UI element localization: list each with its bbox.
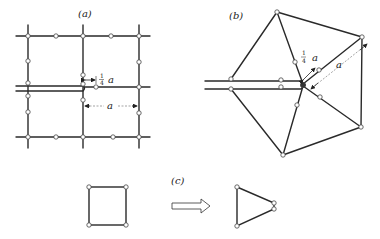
panel-b-label: (b) — [229, 10, 243, 21]
quarter-den-b: 4 — [302, 57, 306, 64]
crack-a — [16, 86, 85, 91]
quarter-num-b: 1 — [302, 49, 306, 56]
panel-c-label: (c) — [171, 175, 185, 186]
transform-arrow-icon — [172, 199, 210, 213]
quarter-symbol-b: a — [312, 52, 318, 63]
quarter-dimension-b: 1 4 a — [301, 49, 318, 80]
quarter-den-a: 4 — [100, 79, 104, 86]
panel-b-edges — [231, 12, 362, 155]
length-dimension-a: a — [85, 100, 137, 111]
length-label-b: a — [336, 59, 342, 70]
figure-canvas: (a) — [0, 0, 380, 239]
panel-a: (a) — [16, 8, 150, 148]
panel-c: (c) — [87, 175, 276, 228]
length-label-a: a — [107, 100, 113, 111]
crack-b — [205, 81, 305, 89]
panel-a-label: (a) — [78, 8, 92, 19]
length-dimension-b: a — [311, 44, 367, 89]
quarter-num-a: 1 — [100, 72, 104, 79]
quad-element — [87, 185, 128, 227]
quarter-dimension-a: 1 4 a — [85, 72, 114, 86]
collapsed-triangle-element — [235, 185, 276, 228]
quarter-symbol-a: a — [108, 74, 114, 85]
panel-b: (b) — [205, 10, 367, 157]
